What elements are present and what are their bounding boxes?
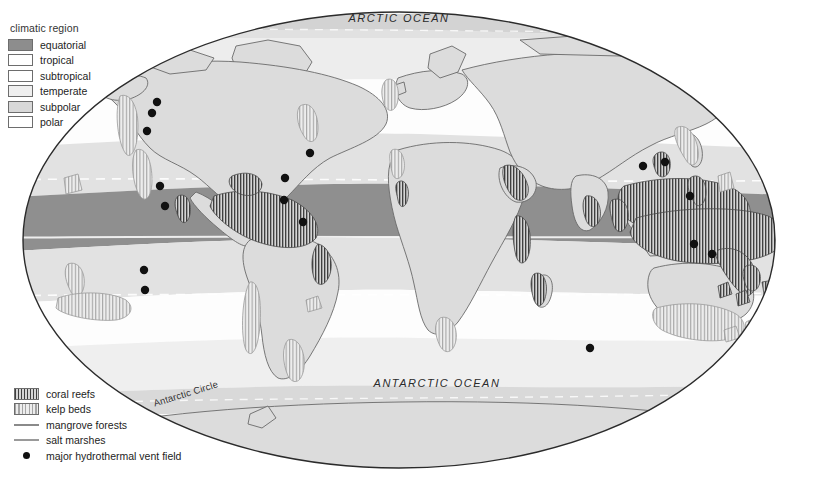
swatch-tropical xyxy=(8,54,33,66)
habitat-legend: coral reefs kelp beds mangrove forests s… xyxy=(14,386,181,464)
swatch-coral-reefs xyxy=(14,388,39,400)
swatch-equatorial xyxy=(8,39,33,51)
legend-label-kelp-beds: kelp beds xyxy=(46,404,91,415)
vent-field-marker xyxy=(153,98,161,106)
swatch-subtropical xyxy=(8,70,33,82)
legend-item-kelp-beds[interactable]: kelp beds xyxy=(14,402,181,418)
vent-field-marker xyxy=(661,158,669,166)
vent-field-marker xyxy=(686,192,694,200)
map-figure: climatic region equatorial tropical subt… xyxy=(0,0,817,481)
dot-vent-field xyxy=(14,452,39,459)
vent-field-marker xyxy=(690,240,698,248)
legend-item-vent-field[interactable]: major hydrothermal vent field xyxy=(14,448,181,464)
vent-field-marker xyxy=(140,266,148,274)
legend-item-subpolar[interactable]: subpolar xyxy=(8,99,91,115)
legend-label-temperate: temperate xyxy=(40,86,87,97)
climate-legend-title: climatic region xyxy=(10,22,91,34)
legend-item-salt-marshes[interactable]: salt marshes xyxy=(14,433,181,449)
swatch-temperate xyxy=(8,85,33,97)
legend-label-vent-field: major hydrothermal vent field xyxy=(46,451,181,462)
vent-field-marker xyxy=(281,174,289,182)
swatch-kelp-beds xyxy=(14,403,39,415)
legend-item-polar[interactable]: polar xyxy=(8,115,91,131)
vent-field-marker xyxy=(148,109,156,117)
swatch-subpolar xyxy=(8,101,33,113)
kelp-new-zealand xyxy=(745,320,779,367)
legend-item-coral-reefs[interactable]: coral reefs xyxy=(14,386,181,402)
vent-field-marker xyxy=(280,196,288,204)
legend-label-polar: polar xyxy=(40,117,63,128)
line-mangrove-forests xyxy=(14,424,39,426)
legend-label-coral-reefs: coral reefs xyxy=(46,389,95,400)
legend-item-tropical[interactable]: tropical xyxy=(8,53,91,69)
vent-field-marker xyxy=(306,149,314,157)
label-antarctic-ocean: ANTARCTIC OCEAN xyxy=(374,377,501,389)
label-arctic-ocean: ARCTIC OCEAN xyxy=(348,12,449,24)
legend-label-tropical: tropical xyxy=(40,55,74,66)
vent-field-marker xyxy=(639,162,647,170)
vent-field-marker xyxy=(156,182,164,190)
legend-item-mangrove-forests[interactable]: mangrove forests xyxy=(14,417,181,433)
line-salt-marshes xyxy=(14,439,39,441)
vent-field-marker xyxy=(299,218,307,226)
legend-label-subtropical: subtropical xyxy=(40,71,91,82)
vent-field-marker xyxy=(586,344,594,352)
legend-label-salt-marshes: salt marshes xyxy=(46,435,106,446)
vent-field-marker xyxy=(143,127,151,135)
legend-item-temperate[interactable]: temperate xyxy=(8,84,91,100)
vent-field-marker xyxy=(161,202,169,210)
legend-item-equatorial[interactable]: equatorial xyxy=(8,37,91,53)
legend-label-subpolar: subpolar xyxy=(40,102,80,113)
land-new-zealand xyxy=(763,306,778,331)
legend-label-equatorial: equatorial xyxy=(40,40,86,51)
vent-field-marker xyxy=(141,286,149,294)
legend-label-mangrove-forests: mangrove forests xyxy=(46,420,127,431)
vent-field-marker xyxy=(708,250,716,258)
swatch-polar xyxy=(8,116,33,128)
legend-item-subtropical[interactable]: subtropical xyxy=(8,68,91,84)
climate-legend: climatic region equatorial tropical subt… xyxy=(8,22,91,130)
